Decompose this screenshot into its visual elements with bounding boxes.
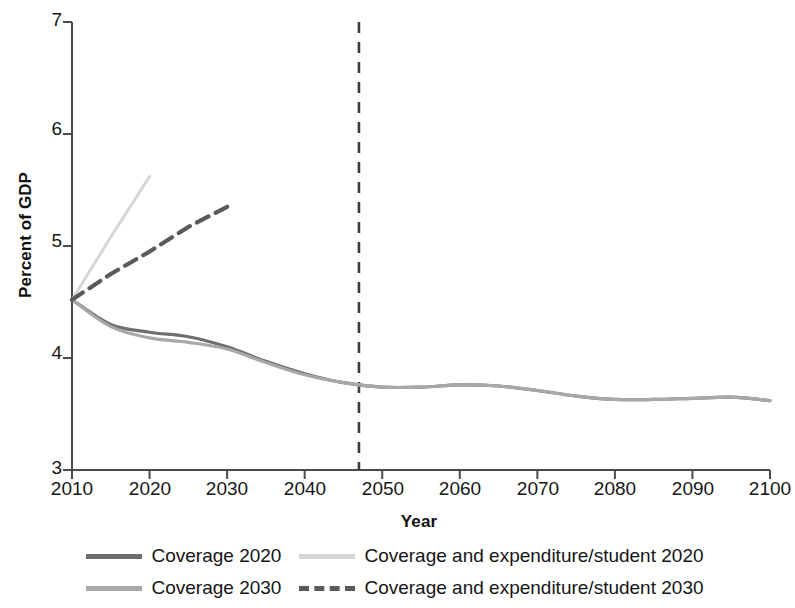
legend-label-coverage-2030: Coverage 2030 [151,577,281,599]
x-axis-title-wrap: Year [0,512,790,532]
legend-item-cov-exp-2020: Coverage and expenditure/student 2020 [299,545,703,567]
legend-row-1: Coverage 2020 Coverage and expenditure/s… [0,540,790,572]
axis-lines [72,22,770,470]
legend-swatch-coverage-2020 [86,554,142,559]
legend-item-coverage-2030: Coverage 2030 [86,577,281,599]
series-line-coverage-2020 [72,300,770,401]
legend-swatch-coverage-2030 [86,586,142,591]
legend-item-cov-exp-2030: Coverage and expenditure/student 2030 [299,577,703,599]
x-axis-title: Year [401,512,437,531]
series-line-coverage-2030 [72,300,770,401]
series-line-coverage-and-expenditure-student-2030 [72,207,227,300]
legend-row-2: Coverage 2030 Coverage and expenditure/s… [0,572,790,604]
chart-legend: Coverage 2020 Coverage and expenditure/s… [0,540,790,604]
legend-label-coverage-2020: Coverage 2020 [151,545,281,567]
plot-area [0,0,790,500]
data-series-group [72,177,770,401]
x-axis-ticks [72,470,770,479]
legend-label-cov-exp-2020: Coverage and expenditure/student 2020 [364,545,703,567]
series-line-coverage-and-expenditure-student-2020 [72,177,150,300]
legend-label-cov-exp-2030: Coverage and expenditure/student 2030 [364,577,703,599]
legend-item-coverage-2020: Coverage 2020 [86,545,281,567]
y-axis-ticks [63,22,72,470]
legend-swatch-cov-exp-2030 [299,586,355,591]
legend-swatch-cov-exp-2020 [299,554,355,559]
